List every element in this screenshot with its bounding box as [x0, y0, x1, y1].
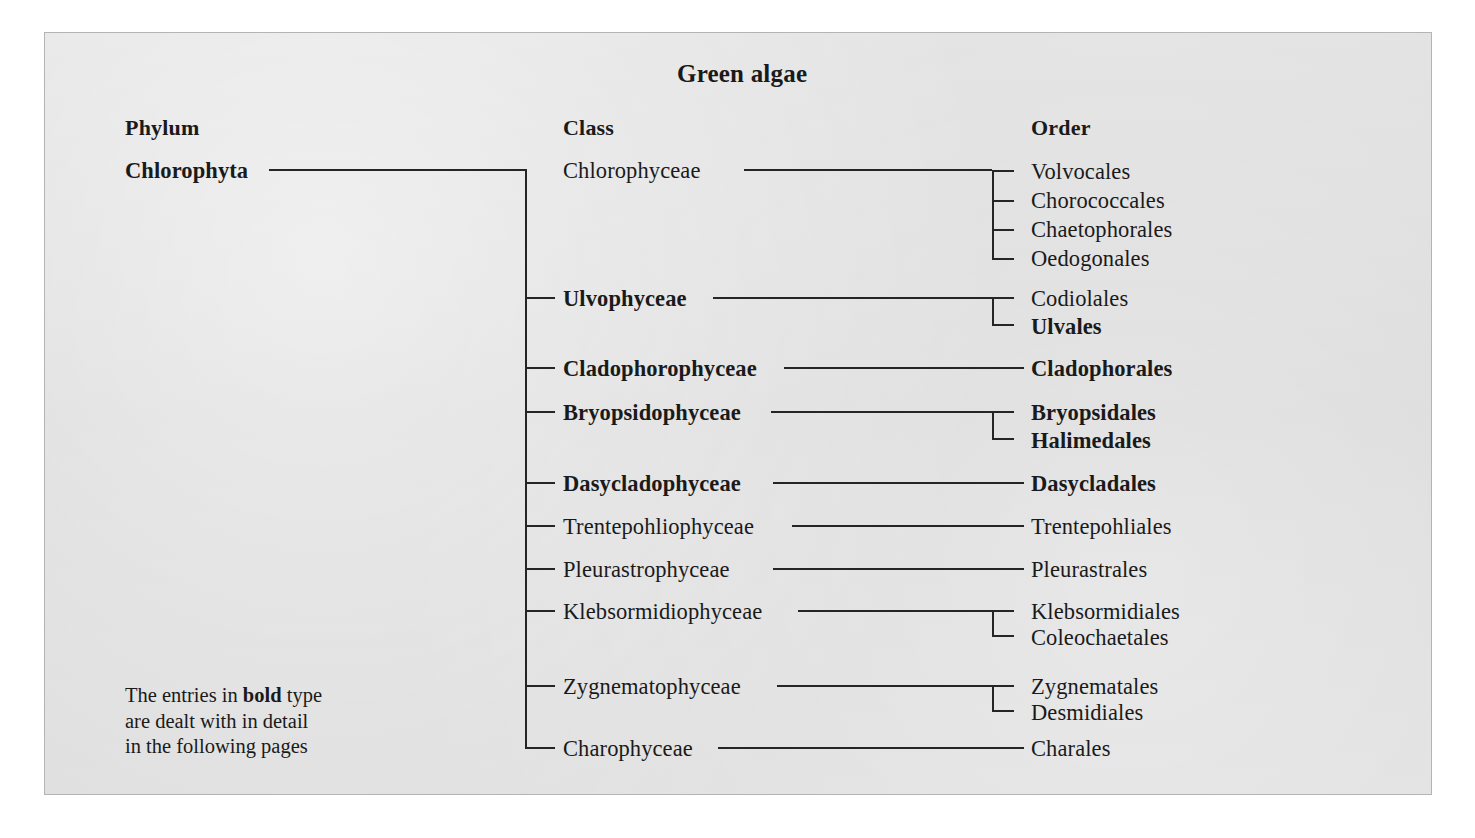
connector-charophyceae — [718, 747, 1024, 749]
column-header-order: Order — [1031, 117, 1091, 139]
class-bryopsidophyceae: Bryopsidophyceae — [563, 402, 741, 425]
connector-phylum-to-spine — [269, 169, 527, 171]
order-zygnematales: Zygnematales — [1031, 676, 1158, 699]
class-tick-klebsormidiophyceae — [525, 610, 555, 612]
legend-note-line1-after: type — [282, 684, 322, 706]
connector-bryopsidophyceae — [771, 411, 992, 413]
order-halimedales: Halimedales — [1031, 430, 1151, 453]
order-cladophorales: Cladophorales — [1031, 358, 1172, 381]
order-tick-halimedales — [992, 438, 1014, 440]
legend-note-line1-before: The entries in — [125, 684, 243, 706]
order-spine-klebsormidiophyceae — [992, 610, 994, 637]
order-tick-chaetophorales — [992, 229, 1014, 231]
order-spine-ulvophyceae — [992, 297, 994, 326]
order-volvocales: Volvocales — [1031, 161, 1130, 184]
connector-cladophorophyceae — [784, 367, 1024, 369]
class-dasycladophyceae: Dasycladophyceae — [563, 473, 741, 496]
connector-klebsormidiophyceae — [798, 610, 992, 612]
order-tick-volvocales — [992, 170, 1014, 172]
class-tick-cladophorophyceae — [525, 367, 555, 369]
diagram-canvas: Green algae Phylum Class Order Chlorophy… — [1, 1, 1475, 838]
order-bryopsidales: Bryopsidales — [1031, 402, 1156, 425]
class-tick-ulvophyceae — [525, 297, 555, 299]
connector-chlorophyceae — [744, 169, 992, 171]
order-oedogonales: Oedogonales — [1031, 248, 1150, 271]
class-tick-zygnematophyceae — [525, 685, 555, 687]
order-spine-bryopsidophyceae — [992, 411, 994, 440]
order-tick-codiolales — [992, 297, 1014, 299]
page-title: Green algae — [677, 61, 807, 86]
order-tick-oedogonales — [992, 258, 1014, 260]
class-tick-pleurastrophyceae — [525, 568, 555, 570]
class-cladophorophyceae: Cladophorophyceae — [563, 358, 757, 381]
order-spine-chlorophyceae — [992, 171, 994, 260]
connector-pleurastrophyceae — [773, 568, 1024, 570]
legend-note-line2: are dealt with in detail — [125, 710, 308, 732]
connector-trentepohliophyceae — [792, 525, 1024, 527]
order-pleurastrales: Pleurastrales — [1031, 559, 1147, 582]
order-tick-zygnematales — [992, 685, 1014, 687]
order-coleochaetales: Coleochaetales — [1031, 627, 1169, 650]
class-klebsormidiophyceae: Klebsormidiophyceae — [563, 601, 762, 624]
connector-dasycladophyceae — [773, 482, 1024, 484]
order-tick-bryopsidales — [992, 411, 1014, 413]
order-codiolales: Codiolales — [1031, 288, 1128, 311]
phylum-chlorophyta: Chlorophyta — [125, 160, 248, 183]
class-zygnematophyceae: Zygnematophyceae — [563, 676, 741, 699]
legend-note-line3: in the following pages — [125, 735, 308, 757]
class-ulvophyceae: Ulvophyceae — [563, 288, 687, 311]
order-ulvales: Ulvales — [1031, 316, 1102, 339]
order-tick-desmidiales — [992, 710, 1014, 712]
order-tick-ulvales — [992, 324, 1014, 326]
class-charophyceae: Charophyceae — [563, 738, 693, 761]
class-tick-bryopsidophyceae — [525, 411, 555, 413]
class-tick-dasycladophyceae — [525, 482, 555, 484]
class-tick-trentepohliophyceae — [525, 525, 555, 527]
figure-panel: Green algae Phylum Class Order Chlorophy… — [44, 32, 1432, 795]
order-trentepohliales: Trentepohliales — [1031, 516, 1172, 539]
order-chorococcales: Chorococcales — [1031, 190, 1165, 213]
order-chaetophorales: Chaetophorales — [1031, 219, 1172, 242]
order-desmidiales: Desmidiales — [1031, 702, 1143, 725]
order-spine-zygnematophyceae — [992, 685, 994, 712]
class-pleurastrophyceae: Pleurastrophyceae — [563, 559, 730, 582]
order-klebsormidiales: Klebsormidiales — [1031, 601, 1180, 624]
connector-ulvophyceae — [713, 297, 992, 299]
order-dasycladales: Dasycladales — [1031, 473, 1156, 496]
class-trentepohliophyceae: Trentepohliophyceae — [563, 516, 754, 539]
column-header-phylum: Phylum — [125, 117, 200, 139]
column-header-class: Class — [563, 117, 614, 139]
order-charales: Charales — [1031, 738, 1111, 761]
order-tick-coleochaetales — [992, 635, 1014, 637]
legend-note: The entries in bold type are dealt with … — [125, 683, 385, 760]
order-tick-chorococcales — [992, 200, 1014, 202]
order-tick-klebsormidiales — [992, 610, 1014, 612]
class-spine — [525, 169, 527, 749]
legend-note-bold-word: bold — [243, 684, 282, 706]
class-chlorophyceae: Chlorophyceae — [563, 160, 701, 183]
connector-zygnematophyceae — [777, 685, 992, 687]
class-tick-charophyceae — [525, 747, 555, 749]
